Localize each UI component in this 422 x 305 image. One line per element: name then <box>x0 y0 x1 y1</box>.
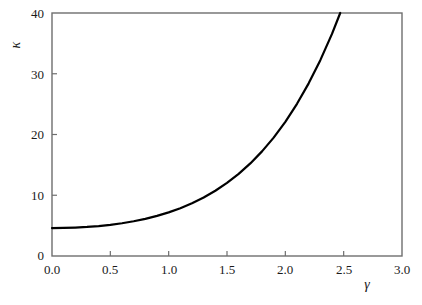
plot-background <box>52 13 402 256</box>
plot-canvas <box>0 0 422 305</box>
chart-figure: κ γ 40 30 20 10 0 0.0 0.5 1.0 1.5 2.0 2.… <box>0 0 422 305</box>
